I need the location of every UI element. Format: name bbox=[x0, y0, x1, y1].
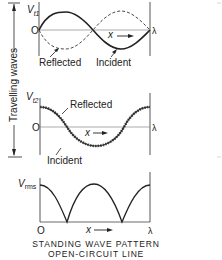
lambda-label: λ bbox=[152, 26, 157, 36]
x-axis-label: x bbox=[85, 224, 92, 235]
graph-rms-standing-wave: Vrms O λ x bbox=[18, 172, 153, 236]
lambda-label: λ bbox=[148, 226, 153, 236]
arrow-down-icon bbox=[12, 149, 16, 156]
graph-travelling-t2: Vt2 O λ x Reflected Incident bbox=[26, 91, 157, 166]
arrow-right-icon bbox=[128, 34, 134, 38]
incident-wave-curve bbox=[39, 12, 150, 49]
origin-label: O bbox=[37, 225, 45, 236]
caption-line-2: OPEN-CIRCUIT LINE bbox=[48, 249, 144, 259]
arrow-right-icon bbox=[107, 228, 113, 232]
incident-label: Incident bbox=[47, 155, 82, 166]
lambda-label: λ bbox=[152, 123, 157, 133]
x-axis-label: x bbox=[107, 29, 114, 40]
origin-label: O bbox=[32, 122, 40, 133]
origin-label: O bbox=[31, 25, 39, 36]
travelling-waves-bracket: Travelling waves bbox=[8, 3, 22, 157]
y-axis-label: Vt2 bbox=[26, 91, 39, 104]
incident-label: Incident bbox=[96, 57, 131, 68]
reflected-label: Reflected bbox=[39, 57, 81, 68]
arrow-up-icon bbox=[12, 4, 16, 11]
reflected-label: Reflected bbox=[70, 99, 112, 110]
y-axis-label: Vt1 bbox=[27, 4, 40, 17]
standing-wave-diagram: Travelling waves Vt1 O λ x Reflected Inc… bbox=[0, 0, 222, 260]
reflected-wave-curve bbox=[40, 107, 150, 146]
y-axis-label: Vrms bbox=[18, 178, 37, 190]
caption-line-1: STANDING WAVE PATTERN bbox=[32, 239, 159, 249]
graph-travelling-t1: Vt1 O λ x Reflected Incident bbox=[27, 2, 157, 68]
x-axis-label: x bbox=[84, 127, 91, 138]
rms-voltage-curve bbox=[40, 184, 150, 222]
arrow-right-icon bbox=[102, 131, 108, 135]
side-label: Travelling waves bbox=[8, 48, 19, 122]
